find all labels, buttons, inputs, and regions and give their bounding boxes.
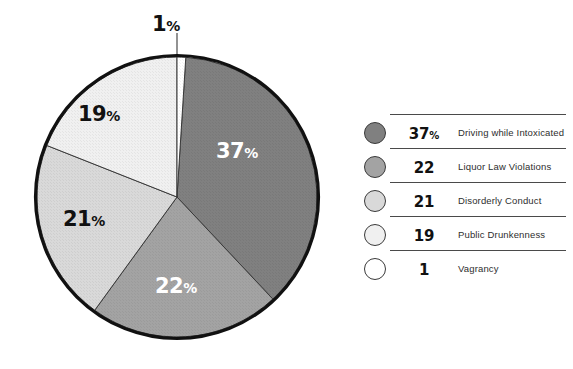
chart-legend: 37%Driving while Intoxicated22Liquor Law… <box>360 114 566 286</box>
legend-value-number: 22 <box>414 159 434 177</box>
legend-value-number: 21 <box>414 193 434 211</box>
pie-chart-area: 37% 22% 21% 19% 1% <box>0 0 345 369</box>
legend-value: 37% <box>396 124 452 143</box>
legend-label: Liquor Law Violations <box>458 161 551 172</box>
pie-chart-svg <box>0 0 345 369</box>
pie-slice-percent-sign-37: % <box>244 145 258 161</box>
legend-value: 1 <box>396 260 452 279</box>
legend-label: Driving while Intoxicated <box>458 127 564 138</box>
legend-row[interactable]: 1Vagrancy <box>360 250 566 284</box>
pie-chart-figure: 37% 22% 21% 19% 1% 37%Driving while Into… <box>0 0 573 369</box>
pie-slice-label-driving-while-intoxicated: 37% <box>216 141 258 162</box>
pie-slice-value-21: 21 <box>63 207 91 231</box>
legend-row[interactable]: 22Liquor Law Violations <box>360 148 566 182</box>
pie-slice-label-disorderly-conduct: 21% <box>63 209 105 230</box>
pie-slice-value-1: 1 <box>152 12 166 36</box>
pie-slice-label-public-drunkenness: 19% <box>78 104 120 125</box>
legend-value-percent-sign: % <box>429 130 439 141</box>
pie-slice-value-22: 22 <box>155 274 183 298</box>
pie-slice-percent-sign-19: % <box>106 108 120 124</box>
pie-slice-value-19: 19 <box>78 102 106 126</box>
legend-swatch-icon <box>364 122 386 144</box>
legend-row[interactable]: 37%Driving while Intoxicated <box>360 114 566 148</box>
pie-slice-value-37: 37 <box>216 139 244 163</box>
legend-label: Public Drunkenness <box>458 229 545 240</box>
legend-value-number: 1 <box>419 261 429 279</box>
legend-row[interactable]: 19Public Drunkenness <box>360 216 566 250</box>
legend-divider <box>390 182 566 183</box>
pie-slice-percent-sign-22: % <box>183 280 197 296</box>
legend-label: Vagrancy <box>458 263 499 274</box>
legend-swatch-icon <box>364 258 386 280</box>
legend-value: 21 <box>396 192 452 211</box>
pie-slice-label-liquor-law-violations: 22% <box>155 276 197 297</box>
legend-divider <box>390 216 566 217</box>
legend-divider <box>390 250 566 251</box>
legend-label: Disorderly Conduct <box>458 195 541 206</box>
legend-swatch-icon <box>364 190 386 212</box>
legend-value: 22 <box>396 158 452 177</box>
legend-divider <box>390 114 566 115</box>
legend-swatch-icon <box>364 156 386 178</box>
pie-slice-percent-sign-1: % <box>166 18 180 34</box>
legend-swatch-icon <box>364 224 386 246</box>
legend-value-number: 19 <box>414 227 434 245</box>
pie-slice-label-vagrancy: 1% <box>152 14 180 35</box>
pie-slice-percent-sign-21: % <box>91 213 105 229</box>
legend-value: 19 <box>396 226 452 245</box>
legend-divider <box>390 148 566 149</box>
legend-value-number: 37 <box>409 125 429 143</box>
legend-row[interactable]: 21Disorderly Conduct <box>360 182 566 216</box>
